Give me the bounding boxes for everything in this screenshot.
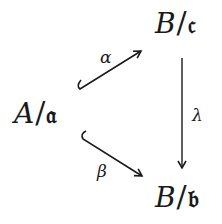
arrow-beta [82, 131, 142, 176]
label-alpha: α [100, 49, 111, 66]
label-beta: β [97, 163, 107, 180]
arrows-layer [0, 0, 222, 224]
label-lambda: λ [192, 107, 203, 124]
